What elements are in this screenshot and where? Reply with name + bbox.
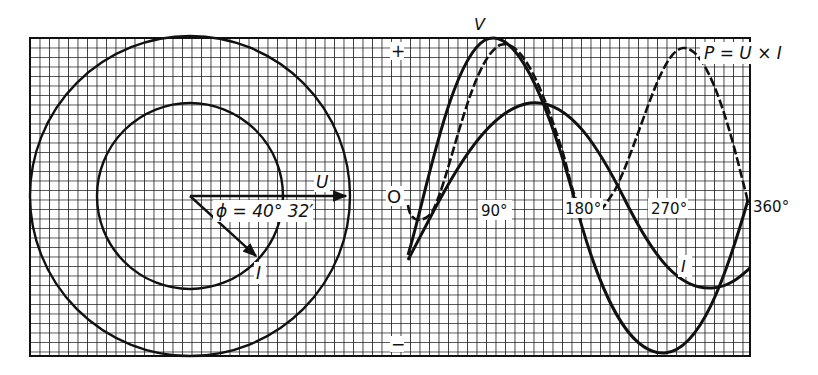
current-curve-label: I	[681, 257, 686, 276]
voltage-curve-label: V	[474, 15, 486, 34]
minus-label: −	[391, 334, 405, 354]
phase-angle-label: ϕ = 40° 32′	[216, 201, 313, 221]
origin-label: O	[387, 186, 401, 207]
voltage-phasor-label: U	[316, 172, 329, 192]
diagram-canvas: ϕ = 40° 32′ U I + − O V P = U × I 90° 18…	[0, 0, 818, 375]
tick-90: 90°	[481, 202, 508, 220]
tick-270: 270°	[651, 200, 687, 218]
current-phasor-label: I	[256, 263, 261, 283]
plus-label: +	[391, 41, 405, 61]
tick-180: 180°	[565, 200, 601, 218]
tick-360: 360°	[753, 198, 789, 216]
power-curve-label: P = U × I	[704, 43, 782, 63]
